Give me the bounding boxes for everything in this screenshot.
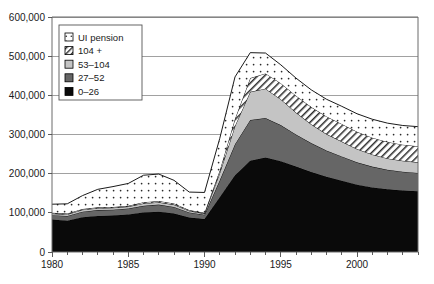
x-tick-label: 2000 <box>346 259 369 270</box>
chart-canvas: 0100,000200,000300,000400,000500,000600,… <box>0 0 434 284</box>
y-axis-ticks <box>48 17 52 252</box>
legend-swatch <box>65 33 73 41</box>
x-axis-labels: 19801985199019952000 <box>41 259 369 270</box>
legend-swatch <box>65 74 73 82</box>
legend-entry[interactable]: 53–104 <box>65 59 110 70</box>
y-tick-label: 200,000 <box>9 168 46 179</box>
legend-entry[interactable]: 104 + <box>65 45 102 56</box>
legend-label: 0–26 <box>78 86 99 97</box>
x-tick-label: 1990 <box>193 259 216 270</box>
y-tick-label: 300,000 <box>9 129 46 140</box>
y-tick-label: 500,000 <box>9 51 46 62</box>
y-axis-labels: 0100,000200,000300,000400,000500,000600,… <box>9 12 46 258</box>
x-tick-label: 1980 <box>41 259 64 270</box>
legend-entry[interactable]: 0–26 <box>65 86 99 97</box>
legend-swatch <box>65 47 73 55</box>
y-tick-label: 400,000 <box>9 90 46 101</box>
legend-swatch <box>65 60 73 68</box>
legend-label: 53–104 <box>78 59 110 70</box>
chart-legend: UI pension104 +53–10427–520–26 <box>59 25 142 100</box>
y-tick-label: 0 <box>39 247 45 258</box>
x-tick-label: 1985 <box>117 259 140 270</box>
legend-label: 104 + <box>78 45 102 56</box>
legend-label: UI pension <box>78 32 123 43</box>
stacked-area-chart: 0100,000200,000300,000400,000500,000600,… <box>0 0 434 284</box>
x-tick-label: 1995 <box>270 259 293 270</box>
legend-swatch <box>65 87 73 95</box>
x-axis-ticks <box>52 252 418 257</box>
y-tick-label: 600,000 <box>9 12 46 23</box>
y-tick-label: 100,000 <box>9 207 46 218</box>
legend-label: 27–52 <box>78 72 104 83</box>
legend-entry[interactable]: 27–52 <box>65 72 104 83</box>
